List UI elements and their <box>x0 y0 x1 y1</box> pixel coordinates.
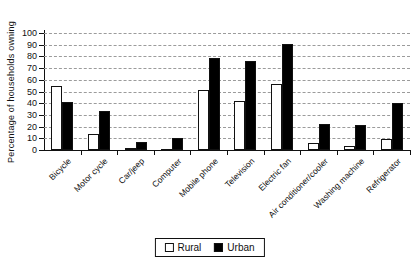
bar-rural-car-jeep <box>125 148 136 150</box>
bar-rural-mobile-phone <box>198 90 209 150</box>
bar-urban-car-jeep <box>136 142 147 150</box>
gridline-70 <box>44 68 410 69</box>
legend-label-urban: Urban <box>227 242 254 253</box>
y-tick-90 <box>39 45 44 46</box>
legend-label-rural: Rural <box>177 242 201 253</box>
y-tick-10 <box>39 138 44 139</box>
y-tick-30 <box>39 115 44 116</box>
x-label-computer: Computer <box>150 156 183 189</box>
x-tick-3 <box>154 151 155 155</box>
x-tick-5 <box>227 151 228 155</box>
x-tick-4 <box>190 151 191 155</box>
x-tick-7 <box>300 151 301 155</box>
y-tick-100 <box>39 33 44 34</box>
bar-rural-electric-fan <box>271 84 282 150</box>
y-tick-label-70: 70 <box>0 63 37 73</box>
legend-item-rural: Rural <box>164 242 201 253</box>
bar-rural-refrigerator <box>381 139 392 150</box>
x-tick-6 <box>264 151 265 155</box>
gridline-40 <box>44 103 410 104</box>
gridline-60 <box>44 80 410 81</box>
bar-rural-bicycle <box>51 86 62 150</box>
y-tick-label-50: 50 <box>0 87 37 97</box>
x-tick-10 <box>410 151 411 155</box>
y-axis-line <box>44 30 45 151</box>
bar-urban-bicycle <box>62 102 73 150</box>
x-tick-9 <box>373 151 374 155</box>
bar-rural-television <box>234 101 245 150</box>
gridline-100 <box>44 33 410 34</box>
y-tick-label-100: 100 <box>0 28 37 38</box>
bar-urban-electric-fan <box>282 44 293 150</box>
y-tick-70 <box>39 68 44 69</box>
y-tick-label-20: 20 <box>0 122 37 132</box>
gridline-80 <box>44 56 410 57</box>
bar-urban-air-conditioner-cooler <box>319 124 330 150</box>
x-tick-1 <box>81 151 82 155</box>
gridline-90 <box>44 45 410 46</box>
gridline-50 <box>44 92 410 93</box>
y-tick-80 <box>39 56 44 57</box>
legend-item-urban: Urban <box>214 242 254 253</box>
y-tick-50 <box>39 92 44 93</box>
bar-urban-refrigerator <box>392 103 403 150</box>
bar-urban-washing-machine <box>355 125 366 150</box>
y-tick-label-40: 40 <box>0 98 37 108</box>
y-tick-label-60: 60 <box>0 75 37 85</box>
bar-urban-motor-cycle <box>99 111 110 150</box>
y-tick-label-30: 30 <box>0 110 37 120</box>
x-label-car-jeep: Car/jeep <box>117 156 147 186</box>
bar-urban-computer <box>172 138 183 150</box>
y-tick-40 <box>39 103 44 104</box>
x-label-motor-cycle: Motor cycle <box>72 156 110 194</box>
bar-rural-air-conditioner-cooler <box>308 143 319 150</box>
y-tick-0 <box>39 150 44 151</box>
x-label-bicycle: Bicycle <box>47 156 73 182</box>
bar-urban-mobile-phone <box>209 58 220 150</box>
y-tick-label-90: 90 <box>0 40 37 50</box>
y-tick-label-10: 10 <box>0 133 37 143</box>
bar-rural-motor-cycle <box>88 134 99 150</box>
legend: RuralUrban <box>154 238 264 257</box>
y-tick-label-0: 0 <box>0 145 37 155</box>
bar-chart-figure: Percentage of households owning RuralUrb… <box>0 0 419 268</box>
bar-rural-computer <box>161 149 172 151</box>
legend-swatch-rural <box>164 243 173 252</box>
x-tick-2 <box>117 151 118 155</box>
x-label-refrigerator: Refrigerator <box>364 156 403 195</box>
legend-swatch-urban <box>214 243 223 252</box>
x-tick-8 <box>337 151 338 155</box>
bar-urban-television <box>245 61 256 150</box>
bar-rural-washing-machine <box>344 146 355 150</box>
x-label-electric-fan: Electric fan <box>256 156 293 193</box>
x-label-television: Television <box>223 156 256 189</box>
y-tick-label-80: 80 <box>0 51 37 61</box>
y-tick-20 <box>39 127 44 128</box>
y-tick-60 <box>39 80 44 81</box>
